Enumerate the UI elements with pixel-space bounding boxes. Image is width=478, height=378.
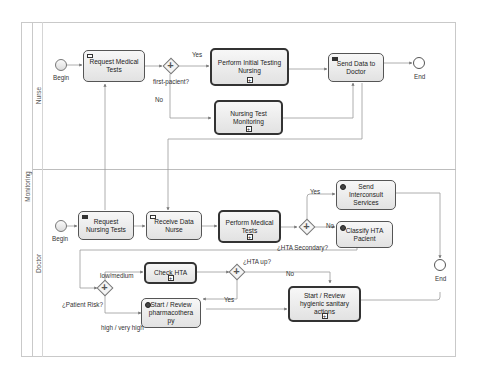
parallel-gateway-icon: + <box>298 218 315 235</box>
nurse-end-label: End <box>414 73 425 80</box>
doctor-end-label: End <box>435 275 446 282</box>
task-send-interconsult-services[interactable]: Send Interconsult Services <box>336 180 396 210</box>
task-label: Request Medical Tests <box>88 58 140 74</box>
task-label: Perform Initial Testing Nursing <box>216 59 283 75</box>
subprocess-expand-icon[interactable]: + <box>246 126 252 132</box>
send-message-icon <box>87 54 93 58</box>
doctor-begin-event[interactable] <box>55 220 67 232</box>
task-classify-hta-pacient[interactable]: Classify HTA Pacient <box>336 221 393 248</box>
parallel-gateway-icon: + <box>228 263 245 280</box>
gateway-hta-secondary-label: ¿HTA Secondary? <box>277 244 328 251</box>
flow-label-low-medium: low/medium <box>100 272 134 279</box>
task-send-data-to-doctor[interactable]: Send Data to Doctor <box>328 53 384 82</box>
gateway-hta-up-label: ¿HTA up? <box>243 258 271 265</box>
flow-label-yes: Yes <box>224 296 234 303</box>
nurse-begin-label: Begin <box>53 74 69 81</box>
subprocess-expand-icon[interactable]: + <box>168 275 174 281</box>
task-request-medical-tests[interactable]: Request Medical Tests <box>83 50 145 82</box>
flow-label-yes: Yes <box>192 51 202 58</box>
subprocess-check-hta[interactable]: Check HTA + <box>144 262 197 284</box>
doctor-begin-label: Begin <box>52 235 68 242</box>
flow-label-high: high / very high <box>101 324 144 331</box>
subprocess-expand-icon[interactable]: + <box>247 234 253 240</box>
send-message-icon <box>332 57 338 61</box>
flow-label-no: No <box>286 270 294 277</box>
task-start-review-pharmacotherapy[interactable]: Start / Review pharmacothera py <box>141 298 201 328</box>
service-gear-icon <box>340 225 346 231</box>
task-label: Send Interconsult Services <box>341 183 391 207</box>
task-label: Perform Medical Tests <box>224 219 275 235</box>
bpmn-canvas: Monitoring Nurse Doctor <box>0 0 478 378</box>
service-gear-icon <box>340 184 346 190</box>
receive-message-icon <box>150 215 156 219</box>
gateway-patient-risk-label: ¿Patient Risk? <box>62 301 103 308</box>
parallel-gateway-icon: + <box>96 279 113 296</box>
task-label: Classify HTA Pacient <box>341 227 388 243</box>
send-message-icon <box>82 215 88 219</box>
flow-label-yes: Yes <box>310 188 320 195</box>
subprocess-expand-icon[interactable]: + <box>247 77 253 83</box>
task-label: Send Data to Doctor <box>333 60 379 76</box>
subprocess-start-review-hygienic[interactable]: Start / Review hygienic sanitary actions… <box>288 286 361 322</box>
service-gear-icon <box>145 302 151 308</box>
doctor-end-event[interactable] <box>434 259 446 271</box>
subprocess-perform-medical-tests[interactable]: Perform Medical Tests + <box>218 210 281 243</box>
flow-label-no: No <box>326 222 334 229</box>
task-label: Nursing Test Monitoring <box>220 110 277 126</box>
task-receive-data-nurse[interactable]: Receive Data Nurse <box>146 211 202 240</box>
task-label: Request Nursing Tests <box>83 218 129 234</box>
task-request-nursing-tests[interactable]: Request Nursing Tests <box>78 211 134 240</box>
gateway-first-pacient-label: first-pacient? <box>153 78 189 85</box>
task-label: Start / Review pharmacothera py <box>146 301 196 325</box>
subprocess-perform-initial-testing[interactable]: Perform Initial Testing Nursing + <box>210 48 289 86</box>
nurse-begin-event[interactable] <box>55 59 67 71</box>
flow-label-no: No <box>155 96 163 103</box>
task-label: Receive Data Nurse <box>151 218 197 234</box>
subprocess-expand-icon[interactable]: + <box>322 313 328 319</box>
parallel-gateway-icon: + <box>162 57 179 74</box>
subprocess-nursing-test-monitoring[interactable]: Nursing Test Monitoring + <box>214 100 283 135</box>
nurse-end-event[interactable] <box>413 57 425 69</box>
